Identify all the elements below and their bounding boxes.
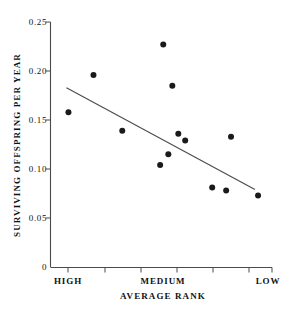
x-axis-category-labels: HIGH MEDIUM LOW xyxy=(54,276,280,286)
data-point xyxy=(65,109,71,115)
y-axis-title: SURVIVING OFFSPRING PER YEAR xyxy=(12,53,22,237)
y-tick-label: 0 xyxy=(42,262,47,272)
data-point xyxy=(223,188,229,194)
scatter-plot-figure: 0.25 0.20 0.15 0.10 0.05 0 xyxy=(0,0,294,311)
data-point xyxy=(157,162,163,168)
data-point xyxy=(255,192,261,198)
y-tick-label: 0.15 xyxy=(29,115,47,125)
x-tick-label-medium: MEDIUM xyxy=(141,276,186,286)
data-point xyxy=(160,42,166,48)
x-axis-title: AVERAGE RANK xyxy=(120,291,206,301)
x-axis xyxy=(51,268,273,273)
chart-canvas: 0.25 0.20 0.15 0.10 0.05 0 xyxy=(0,0,294,311)
y-axis-tick-labels: 0.25 0.20 0.15 0.10 0.05 0 xyxy=(29,17,47,272)
y-axis xyxy=(46,22,51,267)
y-tick-label: 0.10 xyxy=(29,164,47,174)
y-tick-label: 0.25 xyxy=(29,17,47,27)
data-point xyxy=(165,151,171,157)
data-point xyxy=(175,131,181,137)
data-point xyxy=(119,128,125,134)
x-tick-label-high: HIGH xyxy=(54,276,82,286)
data-point xyxy=(169,83,175,89)
y-tick-label: 0.05 xyxy=(29,213,47,223)
data-point xyxy=(209,185,215,191)
data-point xyxy=(228,134,234,140)
data-point xyxy=(182,138,188,144)
trend-line xyxy=(66,88,254,190)
data-point xyxy=(90,72,96,78)
y-tick-label: 0.20 xyxy=(29,66,47,76)
data-points-group xyxy=(65,42,261,199)
x-tick-label-low: LOW xyxy=(256,276,281,286)
